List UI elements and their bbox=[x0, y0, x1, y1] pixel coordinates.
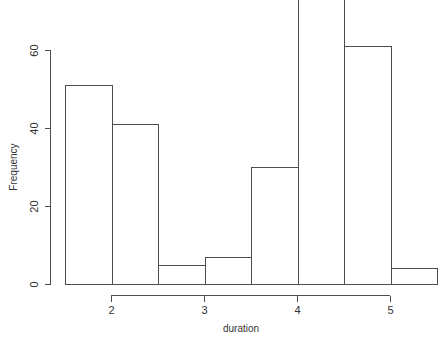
y-tick-label-60: 60 bbox=[28, 44, 40, 56]
x-tick-label-3: 3 bbox=[201, 304, 207, 316]
y-axis: 60 40 20 0 bbox=[28, 44, 51, 287]
bars-group bbox=[66, 0, 438, 285]
histogram-bar bbox=[205, 257, 252, 284]
x-axis: 2 3 4 5 bbox=[108, 296, 393, 317]
x-tick-label-5: 5 bbox=[387, 304, 393, 316]
histogram-bar bbox=[66, 86, 113, 285]
x-tick-label-4: 4 bbox=[294, 304, 300, 316]
histogram-bar bbox=[112, 125, 159, 285]
plot-canvas: 60 40 20 0 2 3 4 5 duration Frequency bbox=[0, 0, 442, 343]
histogram-bar bbox=[345, 47, 392, 285]
histogram-bar bbox=[252, 168, 299, 285]
histogram-bar bbox=[298, 0, 345, 285]
y-axis-title: Frequency bbox=[8, 143, 19, 190]
y-tick-label-0: 0 bbox=[28, 281, 40, 287]
histogram-plot: 60 40 20 0 2 3 4 5 duration Frequency bbox=[0, 0, 442, 343]
y-tick-label-40: 40 bbox=[28, 122, 40, 134]
histogram-bar bbox=[391, 269, 438, 285]
x-tick-label-2: 2 bbox=[108, 304, 114, 316]
x-axis-title: duration bbox=[223, 323, 259, 334]
y-tick-label-20: 20 bbox=[28, 200, 40, 212]
histogram-bar bbox=[159, 265, 206, 285]
